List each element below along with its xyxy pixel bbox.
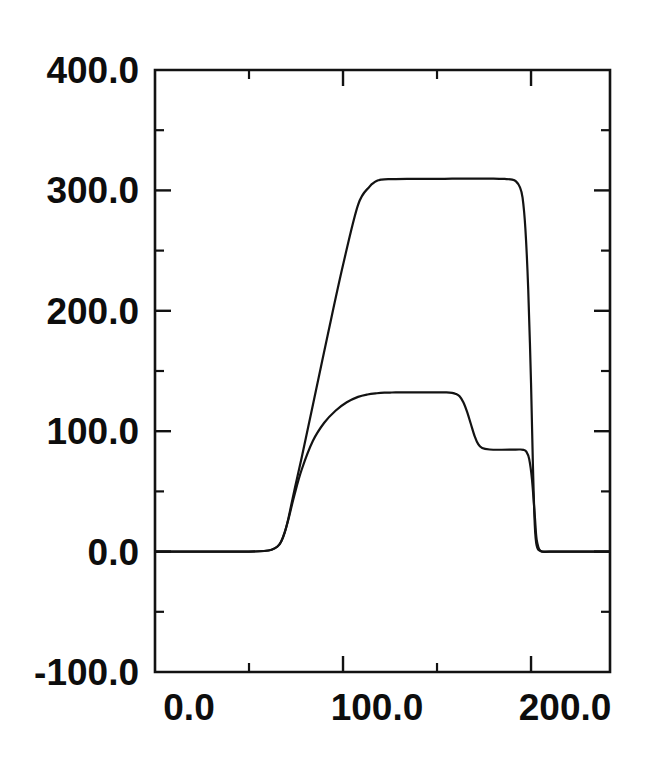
- y-tick-label: 300.0: [46, 170, 139, 211]
- figure-container: 400.0300.0200.0100.00.0-100.0 0.0100.020…: [0, 0, 655, 770]
- y-tick-label: 100.0: [46, 411, 139, 452]
- y-tick-label: -100.0: [34, 652, 139, 693]
- x-tick-label: 200.0: [519, 687, 612, 728]
- y-tick-label: 200.0: [46, 291, 139, 332]
- x-tick-label: 100.0: [331, 687, 424, 728]
- y-tick-label: 0.0: [88, 532, 139, 573]
- plot-canvas: 400.0300.0200.0100.00.0-100.0 0.0100.020…: [0, 0, 655, 770]
- y-tick-label: 400.0: [46, 50, 139, 91]
- x-tick-label: 0.0: [163, 687, 214, 728]
